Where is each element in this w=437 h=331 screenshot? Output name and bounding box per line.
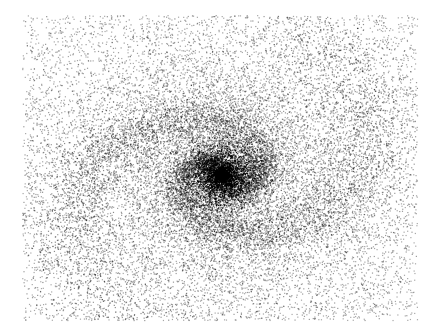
scatter-canvas [0,0,437,331]
